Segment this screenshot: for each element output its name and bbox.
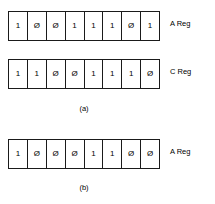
caption-b: (b)	[8, 184, 160, 192]
register-label: A Reg	[170, 20, 190, 28]
register-row-c-reg: 1 1 Ø Ø 1 1 1 Ø C Reg	[8, 59, 160, 89]
bit-cell: 1	[103, 140, 122, 168]
bit-cell: Ø	[66, 60, 85, 88]
register-cells: 1 Ø Ø Ø 1 1 Ø Ø	[8, 139, 160, 169]
bit-cell: Ø	[66, 140, 85, 168]
bit-cell: 1	[103, 12, 122, 40]
bit-cell: 1	[66, 12, 85, 40]
bit-cell: Ø	[28, 12, 47, 40]
bit-cell: 1	[9, 60, 28, 88]
register-label: A Reg	[170, 148, 190, 156]
bit-cell: 1	[9, 12, 28, 40]
bit-cell: 1	[28, 60, 47, 88]
register-cells: 1 1 Ø Ø 1 1 1 Ø	[8, 59, 160, 89]
bit-cell: Ø	[47, 140, 66, 168]
bit-cell: 1	[141, 12, 159, 40]
register-label: C Reg	[170, 68, 191, 76]
bit-cell: 1	[9, 140, 28, 168]
register-row-a-reg-top: 1 Ø Ø 1 1 1 Ø 1 A Reg	[8, 11, 160, 41]
register-cells: 1 Ø Ø 1 1 1 Ø 1	[8, 11, 160, 41]
register-row-a-reg-bottom: 1 Ø Ø Ø 1 1 Ø Ø A Reg	[8, 139, 160, 169]
bit-cell: Ø	[122, 140, 141, 168]
bit-cell: 1	[85, 140, 104, 168]
bit-cell: 1	[103, 60, 122, 88]
caption-a: (a)	[8, 105, 160, 113]
bit-cell: Ø	[141, 140, 159, 168]
bit-cell: 1	[85, 12, 104, 40]
register-diagram: 1 Ø Ø 1 1 1 Ø 1 A Reg 1 1 Ø Ø 1 1 1 Ø C …	[0, 0, 215, 204]
bit-cell: Ø	[141, 60, 159, 88]
bit-cell: 1	[122, 60, 141, 88]
bit-cell: Ø	[122, 12, 141, 40]
bit-cell: Ø	[47, 60, 66, 88]
bit-cell: Ø	[47, 12, 66, 40]
bit-cell: Ø	[28, 140, 47, 168]
bit-cell: 1	[85, 60, 104, 88]
